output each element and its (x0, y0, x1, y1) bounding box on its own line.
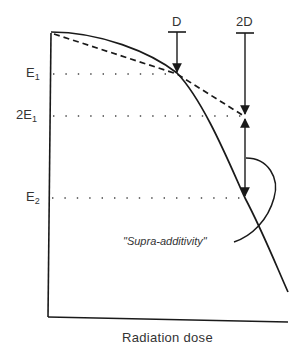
e1-label: E1 (26, 66, 40, 79)
x-axis-label: Radiation dose (122, 331, 213, 344)
e2-label-sub: 2 (35, 196, 40, 206)
additivity-dashed-line (54, 34, 244, 116)
two-e1-label-main: 2E (16, 107, 32, 122)
e1-label-sub: 1 (35, 72, 40, 82)
annotation-leader-curve (234, 158, 276, 242)
e2-label-main: E (26, 189, 35, 204)
two-e1-label-sub: 1 (32, 114, 37, 124)
e1-label-main: E (26, 65, 35, 80)
d-label: D (172, 15, 181, 28)
supra-additivity-annotation: "Supra-additivity" (123, 236, 207, 247)
dose-effect-diagram (0, 0, 306, 346)
e2-label: E2 (26, 190, 40, 203)
two-e1-label: 2E1 (16, 108, 37, 121)
x-axis (48, 317, 288, 322)
two-d-label: 2D (236, 15, 253, 28)
y-axis (48, 33, 51, 317)
